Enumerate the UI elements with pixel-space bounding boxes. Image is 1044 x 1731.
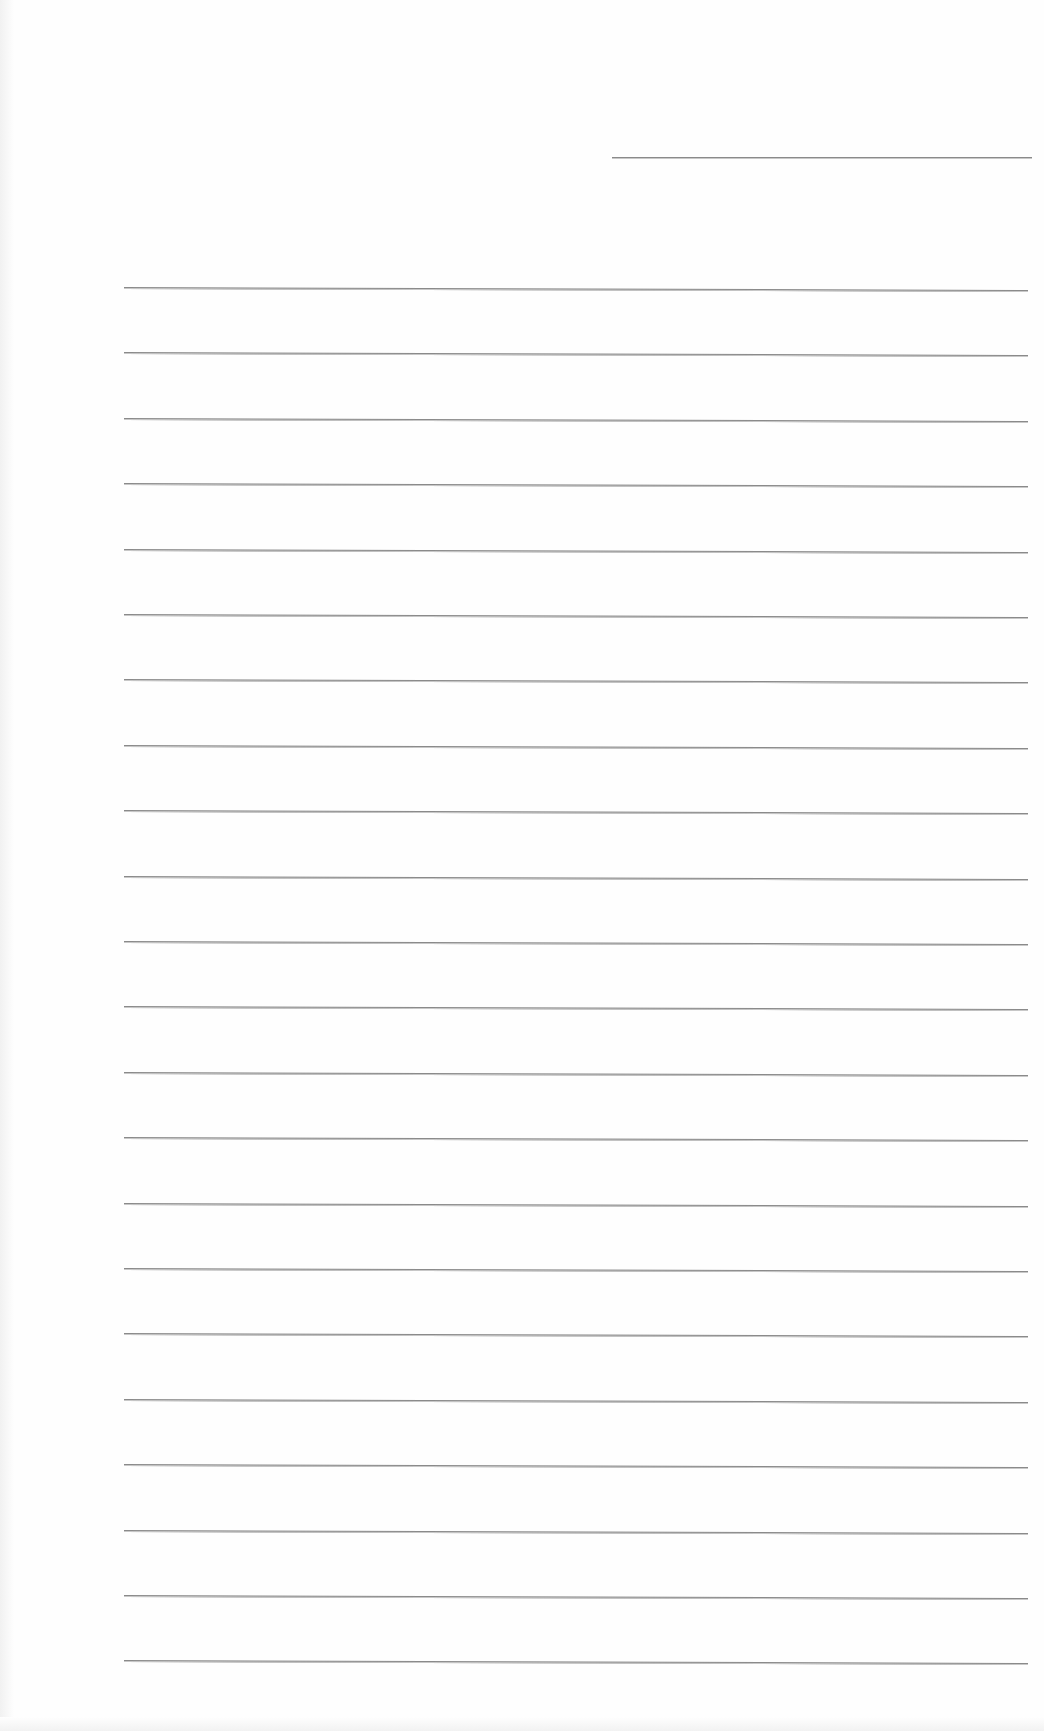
ruled-line bbox=[124, 614, 1028, 619]
ruled-line bbox=[124, 1203, 1028, 1208]
ruled-line bbox=[124, 1399, 1028, 1404]
ruled-line bbox=[124, 745, 1028, 750]
ruled-line bbox=[124, 483, 1028, 488]
ruled-line bbox=[124, 941, 1028, 946]
lined-paper-page bbox=[0, 0, 1044, 1731]
ruled-line bbox=[124, 352, 1028, 357]
ruled-line bbox=[124, 1464, 1028, 1469]
ruled-line bbox=[124, 1660, 1028, 1665]
ruled-line bbox=[124, 876, 1028, 881]
ruled-line bbox=[124, 1006, 1028, 1011]
page-edge-shadow-left bbox=[0, 0, 14, 1731]
ruled-line bbox=[124, 1072, 1028, 1077]
ruled-line bbox=[124, 287, 1028, 292]
ruled-line bbox=[124, 1595, 1028, 1600]
ruled-line bbox=[124, 549, 1028, 554]
ruled-line bbox=[124, 1530, 1028, 1535]
header-rule-line bbox=[612, 157, 1032, 159]
ruled-line bbox=[124, 418, 1028, 423]
ruled-line bbox=[124, 1268, 1028, 1273]
ruled-line bbox=[124, 1137, 1028, 1142]
ruled-line bbox=[124, 1333, 1028, 1338]
page-edge-shadow-bottom bbox=[0, 1717, 1044, 1731]
ruled-line bbox=[124, 679, 1028, 684]
ruled-line bbox=[124, 810, 1028, 815]
